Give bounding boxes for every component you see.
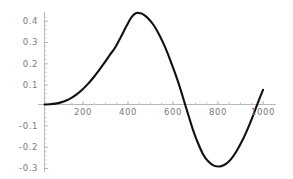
- plot-canvas: [0, 0, 293, 179]
- y-tick-label-6: -0.3: [6, 163, 38, 173]
- data-series-curve: [45, 13, 264, 167]
- x-tick-label-4: 1000: [243, 107, 283, 117]
- y-tick-label-2: 0.2: [10, 59, 38, 69]
- x-tick-label-0: 200: [63, 107, 103, 117]
- x-axis: [38, 101, 276, 104]
- x-tick-label-1: 400: [108, 107, 148, 117]
- x-tick-label-2: 600: [153, 107, 193, 117]
- y-tick-label-4: -0.1: [6, 121, 38, 131]
- plot-figure: 0.4 0.3 0.2 0.1 -0.1 -0.2 -0.3 200 400 6…: [0, 0, 293, 179]
- y-tick-label-1: 0.3: [10, 37, 38, 47]
- y-tick-label-3: 0.1: [10, 80, 38, 90]
- y-tick-label-5: -0.2: [6, 142, 38, 152]
- y-tick-label-0: 0.4: [10, 16, 38, 26]
- y-axis: [45, 12, 48, 172]
- x-tick-label-3: 800: [198, 107, 238, 117]
